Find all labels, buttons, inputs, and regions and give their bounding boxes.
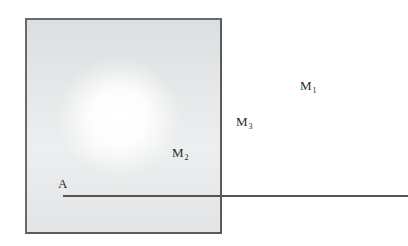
label-m2-subscript: 2 bbox=[185, 153, 189, 162]
label-m3: M3 bbox=[236, 115, 253, 133]
label-m1-subscript: 1 bbox=[313, 86, 317, 95]
label-m3-base: M bbox=[236, 114, 248, 129]
label-m2-base: M bbox=[172, 145, 184, 160]
label-m2: M2 bbox=[172, 146, 189, 164]
label-m3-subscript: 3 bbox=[249, 122, 253, 131]
horizontal-line-from-a bbox=[63, 195, 408, 197]
label-a-text: A bbox=[58, 176, 67, 191]
label-a: A bbox=[58, 177, 67, 190]
label-m1-base: M bbox=[300, 78, 312, 93]
label-m1: M1 bbox=[300, 79, 317, 97]
shaded-region bbox=[25, 18, 222, 234]
